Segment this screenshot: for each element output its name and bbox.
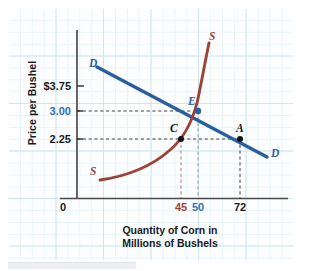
point-marker-C: [178, 136, 184, 142]
x-tick-label-72: 72: [231, 202, 249, 213]
x-tick-label-45: 45: [172, 202, 190, 213]
point-label-C: C: [170, 123, 178, 135]
origin-label: 0: [56, 202, 70, 213]
point-marker-A: [237, 136, 243, 142]
demand-curve-label-right: D: [271, 148, 279, 160]
x-tick-label-50: 50: [189, 202, 207, 213]
point-label-A: A: [236, 123, 244, 135]
supply-curve-label-high: S: [209, 31, 215, 43]
point-label-E: E: [188, 96, 196, 108]
point-marker-E: [195, 108, 201, 114]
y-tick-label-300: 3.00: [26, 106, 71, 117]
supply-curve-label-low: S: [90, 166, 96, 178]
y-tick-label-375: $3.75: [26, 81, 71, 92]
demand-curve-label-left: D: [89, 58, 97, 70]
x-axis-title-line2: Millions of Bushels: [100, 237, 240, 250]
x-axis-title-line1: Quantity of Corn in: [100, 224, 240, 237]
supply-curve: [100, 43, 209, 180]
demand-curve: [97, 67, 267, 157]
y-tick-label-225: 2.25: [26, 134, 71, 145]
guide-lines: [77, 111, 240, 198]
y-tick-marks: [77, 86, 84, 139]
chart-screenshot: Price per Bushel $3.75 3.00 2.25 0 45 50…: [0, 0, 310, 271]
